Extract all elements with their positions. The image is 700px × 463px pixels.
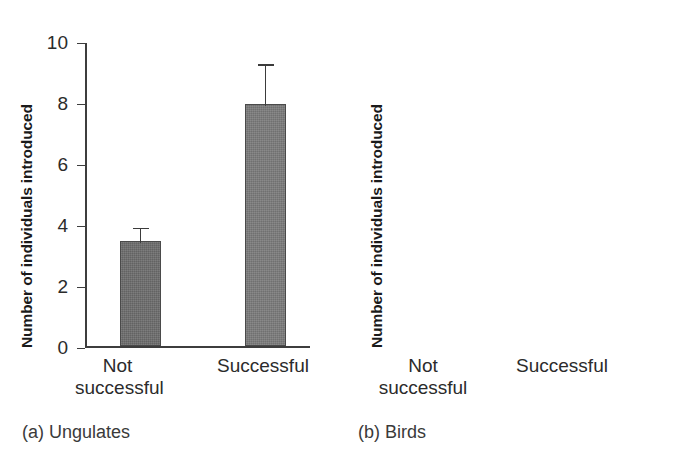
y-tick-a-10: 10 bbox=[77, 43, 85, 44]
x-category-label-a-successful: Successful bbox=[198, 355, 328, 377]
x-axis-line-a bbox=[85, 346, 310, 348]
x-category-label-b-successful: Successful bbox=[492, 355, 632, 377]
figure-two-panel-bar-charts: Number of individuals introduced 0 2 4 6… bbox=[0, 0, 700, 463]
panel-caption-b: (b) Birds bbox=[358, 422, 426, 443]
y-tick-label-a-4: 4 bbox=[57, 215, 68, 237]
y-axis-title-a: Number of individuals introduced bbox=[18, 104, 36, 348]
bar-a-not-successful bbox=[120, 241, 161, 346]
panel-b-birds: Number of individuals introduced 0 20 40… bbox=[350, 0, 700, 463]
errorbar-a-successful bbox=[245, 64, 286, 105]
errorbar-stem bbox=[140, 228, 142, 243]
y-tick-a-0: 0 bbox=[77, 348, 85, 349]
errorbar-cap bbox=[258, 64, 274, 66]
errorbar-stem bbox=[265, 64, 267, 105]
y-tick-a-4: 4 bbox=[77, 226, 85, 227]
y-tick-label-a-2: 2 bbox=[57, 276, 68, 298]
panel-a-ungulates: Number of individuals introduced 0 2 4 6… bbox=[0, 0, 350, 463]
plot-area-a: 0 2 4 6 8 10 bbox=[85, 43, 310, 348]
x-category-label-b-not-successful: Not successful bbox=[378, 355, 468, 399]
errorbar-a-not-successful bbox=[120, 228, 161, 243]
y-tick-label-a-8: 8 bbox=[57, 93, 68, 115]
panel-caption-a: (a) Ungulates bbox=[22, 422, 130, 443]
y-axis-line-a bbox=[85, 43, 87, 348]
y-tick-a-2: 2 bbox=[77, 287, 85, 288]
bar-a-successful bbox=[245, 104, 286, 346]
y-tick-a-6: 6 bbox=[77, 165, 85, 166]
x-category-label-a-not-successful: Not successful bbox=[75, 355, 160, 399]
y-axis-title-b: Number of individuals introduced bbox=[368, 104, 386, 348]
errorbar-cap bbox=[133, 228, 149, 230]
y-tick-a-8: 8 bbox=[77, 104, 85, 105]
y-tick-label-a-10: 10 bbox=[47, 32, 68, 54]
y-tick-label-a-6: 6 bbox=[57, 154, 68, 176]
y-tick-label-a-0: 0 bbox=[57, 337, 68, 359]
